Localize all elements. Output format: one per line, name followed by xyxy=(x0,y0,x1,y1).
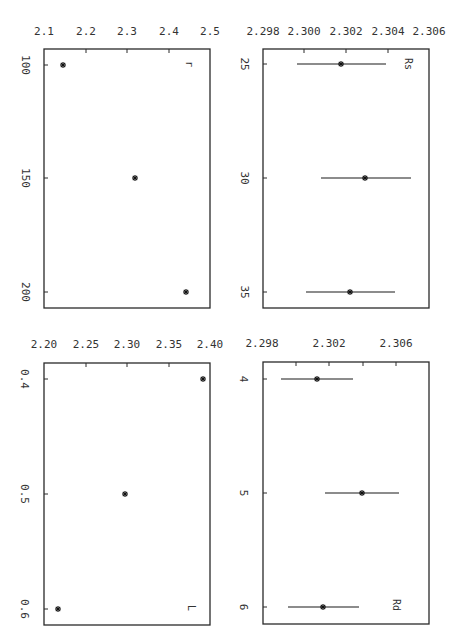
data-point xyxy=(359,490,365,496)
data-point xyxy=(314,376,320,382)
x-tick-label: 2.298 xyxy=(245,337,278,350)
x-tick-label: 2.40 xyxy=(197,338,224,351)
x-tick-label: 2.302 xyxy=(312,337,345,350)
figure: 2.1 2.2 2.3 2.4 2.5 100 150 200 r xyxy=(0,0,453,638)
data-point xyxy=(122,491,128,497)
x-tick-label: 2.2 xyxy=(76,25,96,38)
y-tick-label: 100 xyxy=(19,55,32,75)
x-tick-label: 2.306 xyxy=(412,25,445,38)
x-tick-label: 2.5 xyxy=(200,25,220,38)
panel-Rd: 2.298 2.302 2.306 4 5 6 Rd xyxy=(237,337,429,624)
data-point xyxy=(60,62,66,68)
x-tick-label: 2.3 xyxy=(117,25,137,38)
data-point xyxy=(200,376,206,382)
y-tick-label: 0.5 xyxy=(18,484,31,504)
y-tick-label: 0.4 xyxy=(18,369,31,389)
panel-label: Rd xyxy=(391,599,402,611)
panel-label: r xyxy=(184,61,195,67)
y-tick-label: 35 xyxy=(238,285,251,298)
x-tick-label: 2.306 xyxy=(379,337,412,350)
panel-r: 2.1 2.2 2.3 2.4 2.5 100 150 200 r xyxy=(19,25,220,308)
x-tick-label: 2.30 xyxy=(114,338,141,351)
y-tick-label: 30 xyxy=(238,171,251,184)
data-point xyxy=(55,606,61,612)
panel-Rs: 2.298 2.300 2.302 2.304 2.306 25 30 35 R… xyxy=(238,25,446,308)
plot-frame xyxy=(44,49,210,308)
panel-label: L xyxy=(186,605,197,611)
y-tick-label: 4 xyxy=(237,376,250,383)
x-tick-label: 2.300 xyxy=(287,25,320,38)
y-tick-label: 6 xyxy=(237,604,250,611)
x-tick-label: 2.304 xyxy=(371,25,404,38)
x-tick-label: 2.20 xyxy=(31,338,58,351)
x-tick-label: 2.35 xyxy=(156,338,183,351)
y-tick-label: 0.6 xyxy=(18,599,31,619)
data-point xyxy=(362,175,368,181)
y-tick-label: 200 xyxy=(19,282,32,302)
data-point xyxy=(183,289,189,295)
data-point xyxy=(347,289,353,295)
x-tick-label: 2.298 xyxy=(246,25,279,38)
data-point xyxy=(132,175,138,181)
y-tick-label: 5 xyxy=(237,490,250,497)
x-tick-label: 2.302 xyxy=(329,25,362,38)
x-tick-label: 2.4 xyxy=(159,25,179,38)
y-tick-label: 25 xyxy=(238,57,251,70)
x-tick-label: 2.25 xyxy=(73,338,100,351)
x-tick-label: 2.1 xyxy=(34,25,54,38)
data-point xyxy=(338,61,344,67)
panel-L: 2.20 2.25 2.30 2.35 2.40 0.4 0.5 0.6 L xyxy=(18,338,223,625)
y-tick-label: 150 xyxy=(19,168,32,188)
panel-label: Rs xyxy=(403,58,414,70)
data-point xyxy=(320,604,326,610)
